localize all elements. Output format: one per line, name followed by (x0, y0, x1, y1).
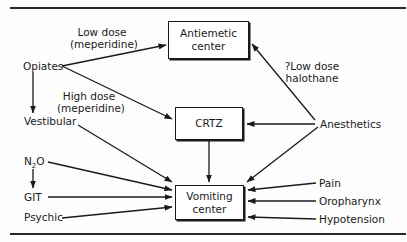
halothane-line2: halothane (280, 72, 344, 84)
vomiting-box-line1: Vomiting (186, 190, 232, 203)
node-pain: Pain (319, 177, 341, 189)
node-anesthetics: Anesthetics (320, 118, 381, 130)
edge-label-high-dose: High dose (meperidine) (57, 90, 121, 114)
crtz-box: CRTZ (175, 107, 243, 140)
crtz-label: CRTZ (195, 117, 222, 130)
antiemetic-box-line1: Antiemetic (180, 27, 237, 40)
low-dose-line2: (meperidine) (70, 38, 134, 50)
vomiting-pathways-diagram: Antiemetic center CRTZ Vomiting center O… (0, 0, 407, 242)
antiemetic-center-box: Antiemetic center (168, 21, 249, 59)
n2o-n: N (24, 155, 32, 167)
node-oropharynx: Oropharynx (319, 195, 381, 207)
node-opiates: Opiates (23, 60, 63, 72)
vomiting-center-box: Vomiting center (175, 185, 244, 220)
node-psychic: Psychic (24, 211, 63, 223)
halothane-line1: ?Low dose (280, 60, 344, 72)
edge-label-low-dose: Low dose (meperidine) (70, 26, 134, 50)
low-dose-line1: Low dose (70, 26, 134, 38)
high-dose-line1: High dose (57, 90, 121, 102)
node-n2o: N2O (24, 155, 45, 172)
node-hypotension: Hypotension (319, 213, 385, 225)
vomiting-box-line2: center (186, 203, 232, 216)
n2o-o: O (36, 155, 44, 167)
node-git: GIT (24, 191, 42, 203)
antiemetic-box-line2: center (180, 40, 237, 53)
edge-label-halothane: ?Low dose halothane (280, 60, 344, 84)
high-dose-line2: (meperidine) (57, 102, 121, 114)
node-vestibular: Vestibular (24, 115, 76, 127)
